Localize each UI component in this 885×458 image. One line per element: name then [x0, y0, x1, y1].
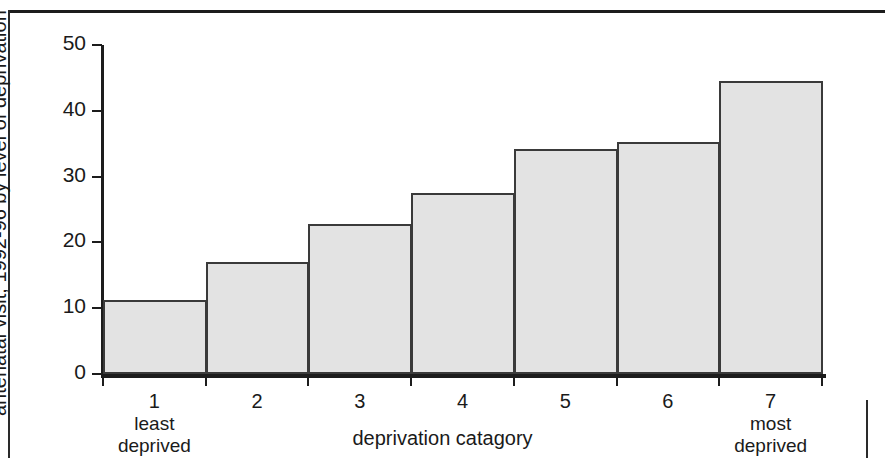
x-tick-1 [205, 376, 207, 386]
x-category-label-3: 3 [308, 390, 411, 413]
y-tick-30: 30 [92, 176, 102, 178]
x-category-label-4: 4 [411, 390, 514, 413]
y-tick-label-50: 50 [63, 32, 86, 53]
y-axis-title: Percentage of women smoking at time of f… [0, 36, 12, 416]
x-category-label-2: 2 [206, 390, 309, 413]
y-tick-label-0: 0 [74, 361, 86, 382]
bar-category-4[interactable] [411, 193, 515, 374]
x-category-number-6: 6 [662, 390, 673, 412]
figure-container: Percentage of women smoking at time of f… [0, 0, 885, 458]
y-tick-40: 40 [92, 110, 102, 112]
y-tick-label-20: 20 [63, 229, 86, 250]
x-category-number-4: 4 [457, 390, 468, 412]
x-axis-line [101, 374, 826, 378]
y-tick-20: 20 [92, 241, 102, 243]
x-tick-7 [821, 376, 823, 386]
bar-category-1[interactable] [103, 300, 207, 374]
x-tick-5 [616, 376, 618, 386]
figure-border-top [8, 10, 885, 13]
x-category-number-2: 2 [251, 390, 262, 412]
bar-category-6[interactable] [617, 142, 721, 374]
y-tick-label-40: 40 [63, 98, 86, 119]
x-category-label-6: 6 [617, 390, 720, 413]
x-tick-4 [513, 376, 515, 386]
bar-category-2[interactable] [206, 262, 310, 374]
x-tick-3 [410, 376, 412, 386]
y-tick-label-30: 30 [63, 164, 86, 185]
bar-category-3[interactable] [308, 224, 412, 374]
x-tick-0 [102, 376, 104, 386]
y-tick-10: 10 [92, 307, 102, 309]
x-category-number-3: 3 [354, 390, 365, 412]
x-category-number-7: 7 [765, 390, 776, 412]
bar-category-7[interactable] [719, 81, 823, 374]
plot-area: 01020304050 1leastdeprived234567mostdepr… [103, 45, 822, 374]
y-tick-label-10: 10 [63, 295, 86, 316]
x-category-number-5: 5 [560, 390, 571, 412]
x-category-label-5: 5 [514, 390, 617, 413]
y-axis-title-line-2: antenatal visit, 1992-96 by level of dep… [0, 36, 12, 416]
x-axis-title: deprivation catagory [0, 427, 885, 450]
y-tick-50: 50 [92, 44, 102, 46]
x-tick-2 [307, 376, 309, 386]
y-tick-0: 0 [92, 373, 102, 375]
x-tick-6 [718, 376, 720, 386]
x-category-number-1: 1 [149, 390, 160, 412]
bar-category-5[interactable] [514, 149, 618, 374]
